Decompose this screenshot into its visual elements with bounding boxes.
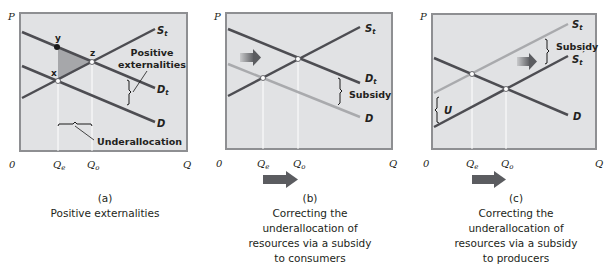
y-axis-label: P: [7, 11, 15, 22]
caption-c: (c) Correcting the underallocation of re…: [441, 191, 591, 266]
panel-c: [432, 14, 596, 149]
caption-line: Correcting the: [441, 206, 591, 221]
y-axis-label: P: [213, 11, 221, 22]
underallocation-label: Underallocation: [97, 136, 182, 147]
origin-label: 0: [423, 158, 430, 169]
panel-letter-a: (a): [40, 191, 170, 206]
caption-a: (a) Positive externalities: [40, 191, 170, 221]
point-initial-eq: [470, 72, 475, 77]
qo-label: Qo: [293, 158, 305, 171]
qe-label: Qe: [466, 158, 478, 171]
point-x-label: x: [51, 68, 57, 78]
point-x: [56, 79, 61, 84]
point-initial-eq: [261, 76, 266, 81]
caption-line: to producers: [441, 251, 591, 266]
point-new-eq: [504, 87, 509, 92]
panel-letter-b: (b): [235, 191, 385, 206]
x-axis-label: Q: [183, 159, 191, 170]
subsidy-label: Subsidy: [556, 41, 599, 52]
caption-b: (b) Correcting the underallocation of re…: [235, 191, 385, 266]
origin-label: 0: [9, 159, 16, 170]
caption-line: Correcting the: [235, 206, 385, 221]
caption-line: resources via a subsidy: [441, 236, 591, 251]
caption-line: to consumers: [235, 251, 385, 266]
demand-label-d: D: [573, 111, 581, 122]
quantity-shift-arrow-c-icon: [472, 171, 506, 188]
point-z: [90, 60, 95, 65]
quantity-shift-arrow-b-icon: [263, 171, 298, 188]
panel-letter-c: (c): [441, 191, 591, 206]
caption-line: Positive externalities: [40, 206, 170, 221]
u-label: U: [444, 105, 452, 116]
point-new-eq: [296, 57, 301, 62]
qe-label: Qe: [257, 158, 269, 171]
demand-label-d: D: [365, 113, 373, 124]
qe-label: Qe: [53, 159, 65, 172]
point-y: [54, 44, 60, 50]
demand-label-d: D: [157, 118, 165, 129]
caption-line: underallocation of: [441, 221, 591, 236]
caption-line: resources via a subsidy: [235, 236, 385, 251]
point-y-label: y: [55, 33, 61, 43]
x-axis-label: Q: [389, 158, 397, 169]
qo-label: Qo: [501, 158, 513, 171]
y-axis-label: P: [419, 11, 427, 22]
subsidy-label: Subsidy: [349, 89, 392, 100]
origin-label: 0: [216, 158, 223, 169]
caption-line: underallocation of: [235, 221, 385, 236]
x-axis-label: Q: [595, 158, 603, 169]
point-z-label: z: [90, 48, 95, 58]
qo-label: Qo: [87, 159, 99, 172]
